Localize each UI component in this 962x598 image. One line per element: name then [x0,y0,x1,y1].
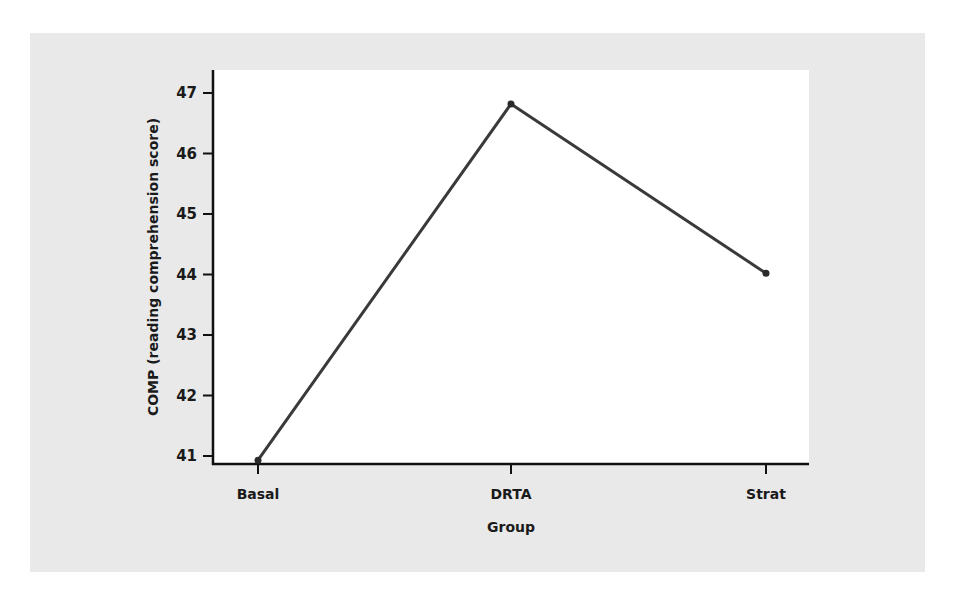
x-tick-label: Strat [746,486,786,502]
y-tick-label: 41 [176,447,197,465]
series-line [258,104,766,460]
y-tick-label: 43 [176,326,197,344]
x-tick-label: Basal [237,486,280,502]
y-tick-label: 42 [176,387,197,405]
data-points [255,100,770,463]
y-axis-title: COMP (reading comprehension score) [145,118,161,416]
y-tick-label: 45 [176,205,197,223]
x-axis-title: Group [487,519,535,535]
y-ticks: 41424344454647 [176,84,213,465]
data-point [255,457,262,464]
x-ticks: BasalDRTAStrat [237,464,787,502]
data-point [508,100,515,107]
data-point [763,270,770,277]
x-tick-label: DRTA [490,486,531,502]
y-tick-label: 47 [176,84,197,102]
y-tick-label: 46 [176,145,197,163]
line-chart: 41424344454647 BasalDRTAStrat Group COMP… [0,0,962,598]
y-tick-label: 44 [176,266,197,284]
